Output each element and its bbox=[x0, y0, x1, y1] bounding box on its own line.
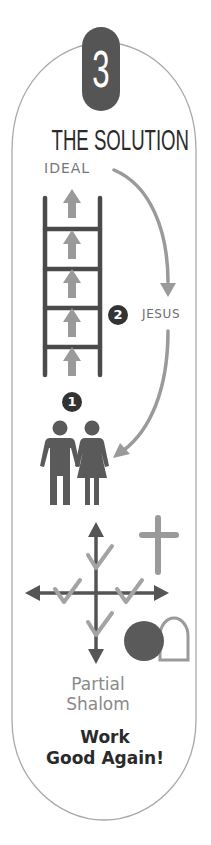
marker-2: 2 bbox=[108, 305, 128, 325]
curved-arrow-to-couple-icon bbox=[113, 331, 168, 458]
work-line2: Good Again! bbox=[20, 748, 190, 769]
work-line1: Work bbox=[20, 727, 190, 748]
curved-arrow-to-jesus-icon bbox=[114, 170, 176, 297]
cross-icon bbox=[142, 518, 176, 572]
couple-icon bbox=[40, 421, 109, 506]
checkmark-icon bbox=[55, 546, 142, 635]
partial-line2: Shalom bbox=[40, 694, 156, 714]
partial-shalom-label: Partial Shalom bbox=[40, 674, 156, 714]
partial-line1: Partial bbox=[40, 674, 156, 694]
marker-1: 1 bbox=[62, 392, 82, 412]
jesus-label: JESUS bbox=[142, 307, 180, 321]
tomb-icon bbox=[124, 618, 188, 661]
solution-card: 3 THE SOLUTION IDEAL bbox=[0, 0, 211, 845]
work-good-again-label: Work Good Again! bbox=[20, 727, 190, 769]
